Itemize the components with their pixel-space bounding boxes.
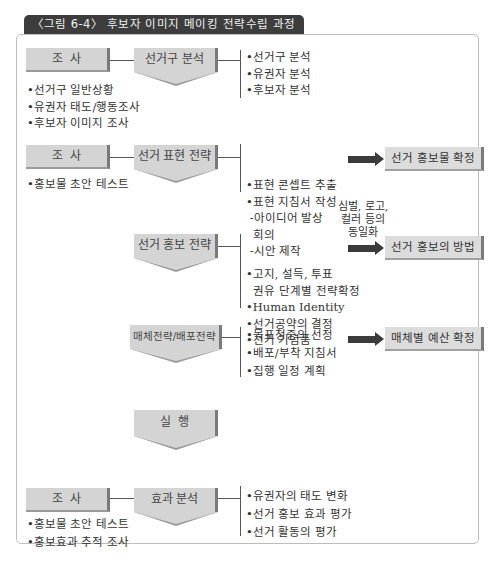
survey-box-1: 조 사 bbox=[26, 48, 110, 72]
stage-items-4: •목표청중의 선정•배포/부착 지침서•집행 일정 계획 bbox=[246, 326, 337, 380]
connector bbox=[222, 337, 240, 338]
stage-items-6: •유권자의 태도 변화•선거 홍보 효과 평가•선거 활동의 평가 bbox=[246, 487, 352, 541]
bracket bbox=[240, 50, 241, 98]
arrow-note: 심벌, 로고,컬러 등의동일화 bbox=[336, 200, 390, 239]
bracket bbox=[240, 327, 241, 377]
survey-items-3: •홍보물 초안 테스트 •홍보효과 추적 조사 bbox=[27, 515, 129, 551]
survey-box-3: 조 사 bbox=[26, 488, 110, 512]
connector bbox=[218, 157, 240, 158]
bracket bbox=[240, 144, 241, 192]
stage-district-analysis: 선거구 분석 bbox=[134, 48, 218, 86]
figure-title: 〈그림 6-4〉 후보자 이미지 메이킹 전략수립 과정 bbox=[24, 15, 304, 34]
stage-promotion-strategy: 선거 홍보 전략 bbox=[134, 234, 218, 272]
arrow-right-icon bbox=[348, 156, 376, 163]
survey-items-2: •홍보물 초안 테스트 bbox=[27, 176, 129, 193]
stage-items-1: •선거구 분석•유권자 분석•후보자 분석 bbox=[246, 49, 311, 99]
connector bbox=[110, 498, 134, 499]
stage-expression-strategy: 선거 표현 전략 bbox=[134, 145, 218, 183]
connector bbox=[110, 60, 134, 61]
stage-execution: 실 행 bbox=[134, 410, 218, 450]
connector bbox=[218, 246, 240, 247]
survey-box-2: 조 사 bbox=[26, 145, 110, 169]
arrow-right-icon bbox=[348, 245, 376, 252]
result-promotion-method: 선거 홍보의 방법 bbox=[385, 236, 484, 260]
result-materials-confirmed: 선거 홍보물 확정 bbox=[385, 147, 484, 171]
survey-items-1: •선거구 일반상황 •유권자 태도/행동조사 •후보자 이미지 조사 bbox=[27, 82, 140, 132]
result-media-budget: 매체별 예산 확정 bbox=[385, 327, 484, 351]
connector bbox=[110, 157, 134, 158]
bracket bbox=[240, 486, 241, 536]
stage-effect-analysis: 효과 분석 bbox=[134, 488, 218, 526]
connector bbox=[218, 60, 240, 61]
bracket bbox=[240, 234, 241, 308]
arrow-right-icon bbox=[348, 336, 376, 343]
stage-media-distribution-strategy: 매체전략/배포전략 bbox=[130, 325, 222, 363]
connector bbox=[218, 498, 240, 499]
